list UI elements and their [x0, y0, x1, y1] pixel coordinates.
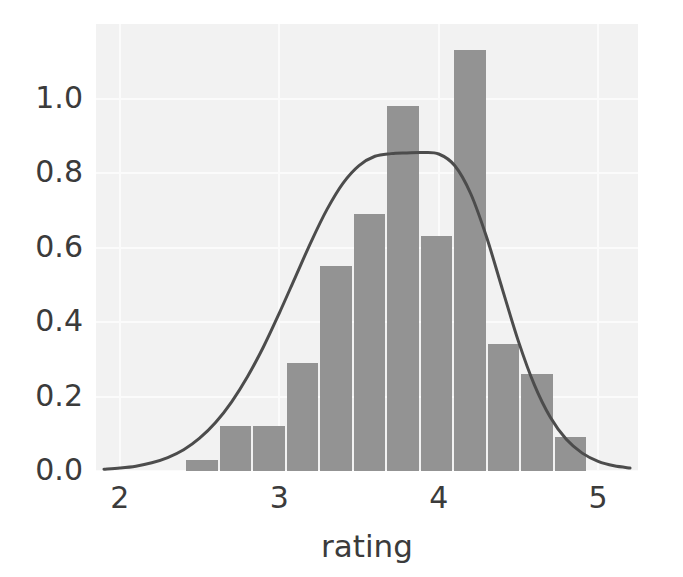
y-axis-tick-label: 0.0 — [35, 455, 83, 485]
y-axis-tick-label: 0.2 — [35, 381, 83, 411]
kde-path — [104, 152, 630, 469]
y-axis-tick-label: 0.4 — [35, 306, 83, 336]
x-axis-tick-label: 3 — [249, 483, 309, 513]
x-axis-tick-label: 2 — [90, 483, 150, 513]
y-axis-tick-label: 0.8 — [35, 157, 83, 187]
y-axis-tick-label: 0.6 — [35, 232, 83, 262]
y-axis-tick-label: 1.0 — [35, 83, 83, 113]
x-axis-tick-label: 4 — [409, 483, 469, 513]
x-axis-label: rating — [96, 529, 638, 563]
x-axis-tick-label: 5 — [568, 483, 628, 513]
figure-canvas: 0.00.20.40.60.81.0 2345 rating — [0, 0, 683, 577]
plot-area — [96, 24, 638, 471]
kde-curve — [96, 24, 638, 471]
